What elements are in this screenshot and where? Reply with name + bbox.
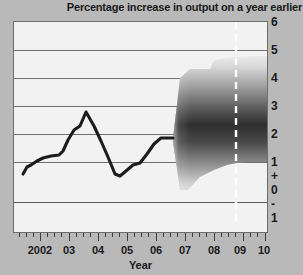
y-tick-0: 0	[271, 184, 278, 196]
y-tick-minus-1: 1	[271, 212, 278, 224]
x-tick-minor	[105, 233, 106, 237]
x-tick-minor	[250, 233, 251, 237]
x-tick-minor	[148, 233, 149, 237]
x-tick-minor	[235, 233, 236, 237]
x-tick-minor	[192, 233, 193, 237]
y-axis-labels: 6 5 4 3 2 1 + 0 - 1	[271, 0, 303, 275]
x-tick-minor	[177, 233, 178, 237]
fan-chart-figure: Percentage increase in output on a year …	[0, 0, 303, 275]
y-tick-4: 4	[271, 72, 278, 84]
x-axis-title: Year	[0, 259, 281, 272]
series-layer	[14, 22, 268, 233]
x-tick-minor	[90, 233, 91, 237]
x-tick-major-2002	[40, 233, 41, 241]
output-growth-line	[23, 112, 173, 176]
x-tick-label-2008: 08	[200, 244, 228, 257]
forecast-fan	[173, 52, 268, 198]
x-tick-label-2009: 09	[228, 244, 252, 257]
x-tick-minor	[134, 233, 135, 237]
y-tick-2: 2	[271, 128, 278, 140]
plot-area	[13, 21, 268, 233]
x-tick-label-2010: 10	[252, 244, 276, 257]
x-tick-minor	[206, 233, 207, 237]
x-tick-major-2004	[98, 233, 99, 241]
x-tick-label-2003: 03	[55, 244, 83, 257]
x-tick-minor	[54, 233, 55, 237]
x-tick-minor	[19, 233, 20, 237]
x-tick-minor	[61, 233, 62, 237]
x-tick-minor	[170, 233, 171, 237]
y-tick-1: 1	[271, 156, 278, 168]
x-tick-major-2008	[214, 233, 215, 241]
x-tick-minor	[228, 233, 229, 237]
y-tick-5: 5	[271, 44, 278, 56]
x-tick-minor	[83, 233, 84, 237]
x-tick-minor	[163, 233, 164, 237]
x-tick-minor	[33, 233, 34, 237]
y-tick-3: 3	[271, 100, 278, 112]
x-tick-minor	[76, 233, 77, 237]
y-sign-negative: -	[271, 198, 275, 210]
x-tick-label-2005: 05	[113, 244, 141, 257]
x-tick-label-2006: 06	[142, 244, 170, 257]
x-tick-major-2007	[185, 233, 186, 241]
x-axis-labels: 2002 03 04 05 06 07 08 09 10	[0, 244, 303, 260]
x-tick-label-2004: 04	[84, 244, 112, 257]
x-tick-major-2009	[243, 233, 244, 241]
x-tick-minor	[199, 233, 200, 237]
x-tick-label-2007: 07	[171, 244, 199, 257]
x-tick-major-2010	[265, 233, 266, 241]
x-tick-major-2005	[127, 233, 128, 241]
x-tick-minor	[141, 233, 142, 237]
x-axis-ticks	[13, 233, 268, 243]
x-tick-minor	[221, 233, 222, 237]
x-tick-minor	[47, 233, 48, 237]
x-tick-minor	[112, 233, 113, 237]
x-tick-minor	[257, 233, 258, 237]
x-tick-minor	[119, 233, 120, 237]
x-tick-label-2002: 2002	[20, 244, 60, 257]
x-tick-major-2003	[69, 233, 70, 241]
chart-title: Percentage increase in output on a year …	[58, 1, 302, 14]
x-tick-minor	[26, 233, 27, 237]
x-tick-major-2006	[156, 233, 157, 241]
y-tick-6: 6	[271, 16, 278, 28]
y-sign-positive: +	[271, 170, 278, 182]
